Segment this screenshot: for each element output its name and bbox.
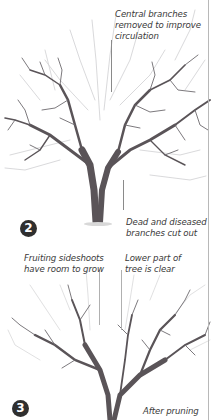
label-line: Central branches bbox=[115, 9, 201, 20]
tree-stage-2 bbox=[5, 10, 210, 226]
label-line: Fruiting sideshoots bbox=[24, 253, 104, 264]
label-line: Lower part of bbox=[125, 253, 181, 264]
label-after-pruning: After pruning bbox=[143, 406, 199, 417]
label-central-branches: Central branches removed to improve circ… bbox=[115, 9, 201, 42]
leader-line-central-branches bbox=[111, 40, 112, 92]
vertical-divider bbox=[208, 0, 209, 420]
label-line: have room to grow bbox=[24, 264, 104, 275]
pruning-illustration: Central branches removed to improve circ… bbox=[0, 0, 222, 420]
label-line: tree is clear bbox=[125, 264, 181, 275]
label-line: removed to improve bbox=[115, 20, 201, 31]
leader-line-fruiting-sideshoots bbox=[99, 270, 100, 325]
stage-3-badge: 3 bbox=[12, 400, 29, 417]
label-line: Dead and diseased bbox=[126, 217, 207, 228]
label-fruiting-sideshoots: Fruiting sideshoots have room to grow bbox=[24, 253, 104, 275]
label-line: branches cut out bbox=[126, 228, 207, 239]
label-lower-part: Lower part of tree is clear bbox=[125, 253, 181, 275]
leader-line-lower-part bbox=[121, 270, 122, 330]
leader-line-dead-diseased bbox=[123, 180, 124, 210]
stage-2-badge: 2 bbox=[20, 220, 37, 237]
label-line: circulation bbox=[115, 31, 201, 42]
tree-stage-3 bbox=[8, 270, 210, 420]
label-dead-diseased: Dead and diseased branches cut out bbox=[126, 217, 207, 239]
